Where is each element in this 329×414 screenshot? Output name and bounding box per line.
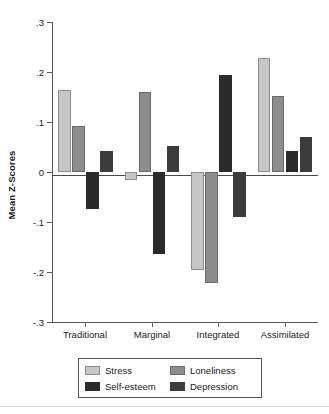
bar-marginal-stress [125, 172, 138, 180]
legend-label: Stress [105, 365, 132, 376]
legend-swatch-depression [170, 382, 185, 391]
x-tick [285, 322, 286, 327]
bar-assimilated-stress [258, 58, 271, 172]
legend-item-self-esteem[interactable]: Self-esteem [85, 381, 170, 392]
y-axis-line [52, 22, 53, 322]
legend-item-loneliness[interactable]: Loneliness [170, 365, 255, 376]
bar-traditional-loneliness [72, 126, 85, 172]
bar-marginal-depression [167, 146, 180, 172]
y-tick [47, 72, 52, 73]
y-tick [47, 22, 52, 23]
bar-traditional-self-esteem [86, 172, 99, 209]
x-tick [218, 322, 219, 327]
x-tick [152, 322, 153, 327]
legend: StressLonelinessSelf-esteemDepression [78, 358, 262, 398]
legend-label: Depression [190, 381, 238, 392]
x-tick-label: Assimilated [261, 329, 310, 340]
y-tick-label: .1 [36, 117, 44, 128]
footer-divider [0, 406, 329, 407]
legend-item-depression[interactable]: Depression [170, 381, 255, 392]
x-axis-line [52, 322, 318, 323]
y-axis-title-label: Mean Z-Scores [6, 130, 17, 240]
y-tick-label: -.3 [33, 317, 44, 328]
y-tick [47, 172, 52, 173]
legend-label: Loneliness [190, 365, 235, 376]
legend-item-stress[interactable]: Stress [85, 365, 170, 376]
x-tick-label: Marginal [134, 329, 170, 340]
bar-assimilated-depression [300, 137, 313, 172]
bar-integrated-loneliness [205, 172, 218, 283]
y-tick [47, 322, 52, 323]
bar-marginal-self-esteem [153, 172, 166, 254]
bar-marginal-loneliness [139, 92, 152, 173]
chart-figure: Mean Z-Scores .3.2.10-.1-.2-.3 Tradition… [0, 0, 329, 414]
bar-traditional-depression [100, 151, 113, 173]
x-tick-label: Traditional [63, 329, 107, 340]
y-tick-label: 0 [39, 167, 44, 178]
bar-integrated-self-esteem [219, 75, 232, 172]
y-tick-label: -.2 [33, 267, 44, 278]
plot-area: .3.2.10-.1-.2-.3 TraditionalMarginalInte… [52, 22, 318, 322]
legend-label: Self-esteem [105, 381, 156, 392]
y-tick [47, 272, 52, 273]
y-tick-label: -.1 [33, 217, 44, 228]
legend-swatch-loneliness [170, 366, 185, 375]
legend-swatch-stress [85, 366, 100, 375]
bar-assimilated-loneliness [272, 96, 285, 172]
bar-integrated-depression [233, 172, 246, 217]
y-tick-label: .3 [36, 17, 44, 28]
bar-traditional-stress [58, 90, 71, 173]
x-tick [85, 322, 86, 327]
y-tick-label: .2 [36, 67, 44, 78]
y-tick [47, 122, 52, 123]
bar-integrated-stress [191, 172, 204, 270]
y-tick [47, 222, 52, 223]
x-tick-label: Integrated [197, 329, 240, 340]
bar-assimilated-self-esteem [286, 151, 299, 172]
legend-swatch-self-esteem [85, 382, 100, 391]
y-axis-title: Mean Z-Scores [2, 20, 17, 130]
